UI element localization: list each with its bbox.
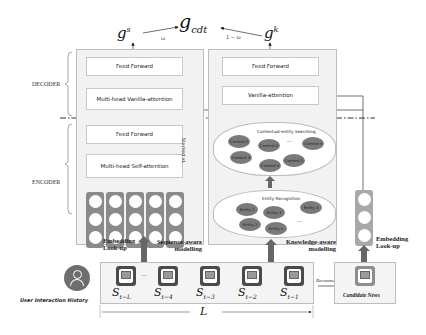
context-node: Context 2 [258,139,280,152]
embedding-column [86,192,104,248]
context-node: Context 1 [228,135,250,148]
up-arrow-icon [361,250,367,262]
context-node: Context n [302,137,324,150]
news-icon [242,266,262,286]
up-arrow-head-icon [265,176,275,181]
user-avatar-icon [64,265,90,291]
up-arrow-icon [141,240,147,262]
up-arrow-head-icon [358,245,370,251]
context-node: Context 5 [283,154,305,167]
up-arrow-icon [268,244,274,262]
seq-decoder-attention: Multi-head Vanilla-attention [86,88,183,110]
entity-ellipsis: ... [297,217,302,223]
know-decoder-feed-forward: Feed Forward [222,57,319,76]
candidate-embedding-column [355,190,373,246]
seq-encoder-self-attention: Multi-head Self-attention [86,154,183,178]
know-decoder-attention: Vanilla-attention [222,86,319,105]
sequence-aware-label: Sequence-aware modelling [156,238,202,252]
seq-embedding-label: Embedding Look-up [103,237,137,251]
seq-decoder-feed-forward: Feed Forward [86,57,183,76]
length-label: L [200,305,207,318]
context-node: Context 4 [259,159,281,172]
stacked-label: Stacked ×L [181,138,186,164]
context-node: Context 3 [230,151,252,164]
entity-node: Entity 4 [300,201,322,214]
news-icon [284,266,304,286]
history-ellipsis: ... [141,270,147,277]
decoder-label: DECODER [32,81,60,87]
entity-node: Entity 3 [263,206,285,219]
candidate-embedding-label: Embedding Look-up [376,235,416,249]
news-icon [116,266,136,286]
up-arrow-icon [268,180,272,188]
encoder-label: ENCODER [32,179,60,185]
knowledge-aware-label: Knowledge-aware modelling [282,238,336,252]
seq-encoder-feed-forward: Feed Forward [86,125,183,144]
entity-node: Entity 2 [239,218,261,231]
context-ellipsis: ... [287,137,292,143]
news-icon [200,266,220,286]
contextual-entity-title: Contextual-entity Searching [257,129,316,134]
news-icon [158,266,178,286]
candidate-news-icon [355,266,375,286]
up-arrow-head-icon [265,239,277,245]
entity-node: Entity n [265,222,287,235]
up-arrow-head-icon [138,236,150,242]
entity-recognition-title: Entity Recognition [262,196,300,201]
entity-node: Entity 1 [236,203,258,216]
user-history-label: User Interaction History [20,297,88,303]
candidate-news-label: Candidate News [343,292,380,298]
